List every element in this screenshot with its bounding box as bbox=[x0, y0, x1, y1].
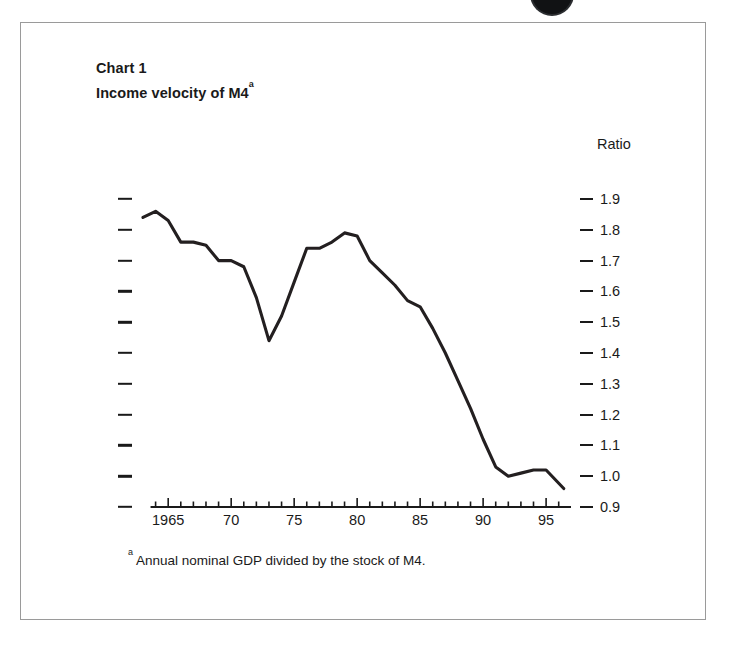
footnote-marker: a bbox=[128, 547, 133, 557]
left-axis-tick-dash bbox=[118, 229, 132, 231]
y-tick-dash bbox=[580, 352, 593, 354]
left-axis-tick-dash bbox=[118, 321, 132, 323]
y-tick-label: 1.7 bbox=[600, 253, 620, 269]
left-axis-tick-dash bbox=[118, 352, 132, 354]
left-axis-tick-dash bbox=[118, 290, 132, 292]
y-tick-label: 1.2 bbox=[600, 407, 620, 423]
y-tick-label: 1.0 bbox=[600, 468, 620, 484]
y-tick-dash bbox=[580, 383, 593, 385]
velocity-data-line bbox=[143, 211, 564, 488]
y-tick-label: 1.9 bbox=[600, 191, 620, 207]
chart-footnote: a Annual nominal GDP divided by the stoc… bbox=[128, 551, 425, 568]
chart-plot-area: 1.91.81.71.61.51.41.31.21.11.00.9 196570… bbox=[0, 0, 729, 646]
y-tick-label: 1.4 bbox=[600, 345, 620, 361]
footnote-text: Annual nominal GDP divided by the stock … bbox=[136, 553, 425, 568]
y-tick-dash bbox=[580, 198, 593, 200]
left-axis-tick-dash bbox=[118, 475, 132, 477]
y-tick-label: 1.8 bbox=[600, 222, 620, 238]
y-tick-label: 1.5 bbox=[600, 314, 620, 330]
x-tick-label: 80 bbox=[349, 512, 365, 528]
y-tick-dash bbox=[580, 260, 593, 262]
y-tick-dash bbox=[580, 229, 593, 231]
y-tick-dash bbox=[580, 290, 593, 292]
left-axis-tick-dash bbox=[118, 506, 132, 508]
x-tick-label: 1965 bbox=[152, 512, 184, 528]
x-tick-label: 85 bbox=[412, 512, 428, 528]
y-tick-label: 1.1 bbox=[600, 437, 620, 453]
y-tick-dash bbox=[580, 444, 593, 446]
y-tick-dash bbox=[580, 475, 593, 477]
y-tick-label: 1.6 bbox=[600, 283, 620, 299]
y-tick-dash bbox=[580, 414, 593, 416]
left-axis-tick-dash bbox=[118, 198, 132, 200]
left-axis-tick-dash bbox=[118, 444, 132, 446]
y-tick-label: 0.9 bbox=[600, 499, 620, 515]
y-tick-dash bbox=[580, 321, 593, 323]
x-tick-label: 95 bbox=[538, 512, 554, 528]
left-axis-tick-dash bbox=[118, 383, 132, 385]
left-axis-tick-dash bbox=[118, 259, 132, 261]
x-tick-label: 70 bbox=[223, 512, 239, 528]
x-tick-label: 75 bbox=[286, 512, 302, 528]
x-tick-label: 90 bbox=[475, 512, 491, 528]
left-axis-tick-dash bbox=[118, 413, 132, 415]
y-tick-dash bbox=[580, 506, 593, 508]
y-tick-label: 1.3 bbox=[600, 376, 620, 392]
